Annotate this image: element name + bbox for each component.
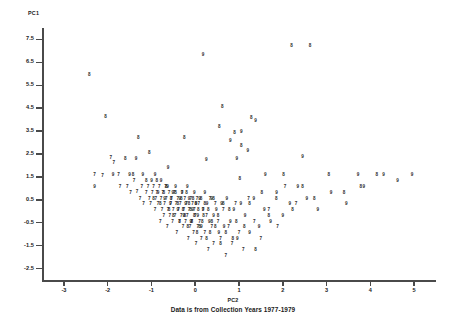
data-point-1977: 7 (141, 185, 144, 190)
data-point-1978: 8 (88, 73, 91, 78)
data-point-1978: 8 (132, 173, 135, 178)
data-point-1977: 7 (284, 185, 287, 190)
data-point-1979: 9 (169, 202, 172, 207)
data-point-1979: 9 (193, 191, 196, 196)
data-point-1979: 9 (184, 202, 187, 207)
data-point-1979: 9 (240, 130, 243, 135)
data-point-1979: 9 (330, 191, 333, 196)
x-tick-label: 1 (224, 288, 254, 294)
x-tick-label: 5 (399, 288, 429, 294)
data-point-1978: 8 (290, 44, 293, 49)
data-point-1979: 9 (93, 185, 96, 190)
data-point-1979: 9 (174, 185, 177, 190)
x-tick-label: 4 (355, 288, 385, 294)
data-point-1978: 8 (202, 214, 205, 219)
data-point-1979: 9 (220, 202, 223, 207)
data-point-1978: 8 (233, 131, 236, 136)
data-point-1979: 9 (135, 156, 138, 161)
data-point-1978: 8 (124, 156, 127, 161)
data-point-1978: 8 (172, 214, 175, 219)
data-point-1979: 9 (246, 149, 249, 154)
data-point-1977: 7 (136, 190, 139, 195)
data-point-1977: 7 (222, 208, 225, 213)
data-point-1979: 9 (163, 196, 166, 201)
x-tick-label: -2 (93, 288, 123, 294)
x-tick-mark (151, 280, 153, 286)
data-point-1979: 9 (254, 118, 257, 123)
data-point-1979: 9 (223, 225, 226, 230)
data-point-1979: 9 (190, 219, 193, 224)
data-point-1979: 9 (225, 196, 228, 201)
x-tick-label: -1 (136, 288, 166, 294)
data-point-1979: 9 (179, 196, 182, 201)
data-point-1979: 9 (154, 173, 157, 178)
data-point-1977: 7 (295, 202, 298, 207)
data-point-1977: 7 (176, 231, 179, 236)
data-point-1977: 7 (149, 202, 152, 207)
data-point-1978: 8 (243, 225, 246, 230)
data-point-1978: 8 (260, 191, 263, 196)
y-tick-label: 4.5 (0, 105, 34, 111)
data-point-1979: 9 (264, 173, 267, 178)
x-tick-label: 3 (312, 288, 342, 294)
data-point-1977: 7 (182, 225, 185, 230)
data-point-1978: 8 (221, 105, 224, 110)
data-point-1978: 8 (225, 231, 228, 236)
data-point-1978: 8 (309, 44, 312, 49)
data-point-1977: 7 (133, 179, 136, 184)
data-point-1977: 7 (142, 202, 145, 207)
data-point-1978: 8 (248, 202, 251, 207)
data-point-1979: 9 (202, 53, 205, 58)
y-tick-label: 7.5 (0, 36, 34, 42)
x-tick-label: 0 (180, 288, 210, 294)
figure-subtitle: Data is from Collection Years 1977-1979 (0, 306, 466, 313)
x-tick-mark (238, 280, 240, 286)
data-point-1978: 8 (183, 136, 186, 141)
data-point-1979: 9 (172, 191, 175, 196)
data-point-1979: 9 (181, 191, 184, 196)
data-point-1979: 9 (396, 179, 399, 184)
data-point-1978: 8 (205, 236, 208, 241)
data-point-1977: 7 (260, 236, 263, 241)
y-axis-title: PC1 (28, 10, 39, 16)
data-point-1979: 9 (204, 191, 207, 196)
data-point-1977: 7 (242, 248, 245, 253)
data-point-1979: 9 (150, 179, 153, 184)
data-point-1979: 9 (244, 214, 247, 219)
x-tick-label: -3 (49, 288, 79, 294)
data-point-1979: 9 (258, 225, 261, 230)
data-point-1978: 8 (217, 214, 220, 219)
data-point-1978: 8 (218, 124, 221, 129)
data-point-1979: 9 (275, 191, 278, 196)
data-point-1977: 7 (117, 173, 120, 178)
data-point-1977: 7 (195, 242, 198, 247)
data-point-1977: 7 (171, 219, 174, 224)
data-point-1977: 7 (212, 242, 215, 247)
data-point-1977: 7 (93, 172, 96, 177)
y-tick-label: -1.5 (0, 243, 34, 249)
data-point-1977: 7 (119, 184, 122, 189)
data-point-1979: 9 (236, 156, 239, 161)
data-point-1977: 7 (186, 214, 189, 219)
data-point-1979: 9 (195, 202, 198, 207)
x-tick-label: 2 (268, 288, 298, 294)
data-point-1979: 9 (206, 202, 209, 207)
data-point-1979: 9 (232, 208, 235, 213)
data-point-1978: 8 (301, 185, 304, 190)
data-point-1977: 7 (217, 219, 220, 224)
data-point-1978: 8 (235, 219, 238, 224)
data-point-1979: 9 (411, 173, 414, 178)
data-point-1977: 7 (101, 174, 104, 179)
y-tick-label: 1.5 (0, 174, 34, 180)
data-point-1979: 9 (229, 219, 232, 224)
data-point-1979: 9 (253, 196, 256, 201)
data-point-1979: 9 (205, 157, 208, 162)
data-point-1978: 8 (104, 115, 107, 120)
data-point-1978: 8 (207, 208, 210, 213)
data-point-1978: 8 (275, 196, 278, 201)
data-point-1978: 8 (376, 173, 379, 178)
data-point-1979: 9 (248, 231, 251, 236)
data-point-1977: 7 (159, 219, 162, 224)
data-point-1977: 7 (207, 248, 210, 253)
data-point-1979: 9 (296, 185, 299, 190)
